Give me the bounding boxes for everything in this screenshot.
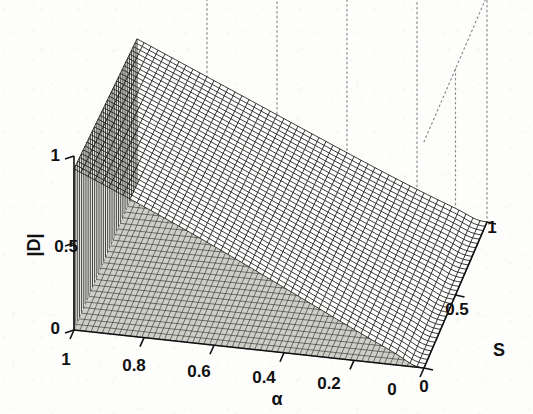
alpha-tick-label-0-2: 0.2 [317, 374, 341, 393]
alpha-tick-label-0: 0 [387, 380, 396, 399]
s-tick-label-0-5: 0.5 [445, 300, 469, 319]
alpha-tick-label-0-8: 0.8 [122, 356, 146, 375]
s-tick-label-1: 1 [487, 218, 496, 237]
z-tick-label-0: 0 [51, 319, 60, 338]
s-tick-label-0: 0 [419, 377, 428, 396]
alpha-tick-label-0-6: 0.6 [187, 362, 211, 381]
surface-plot-figure: 1 0.5 0 |D| 1 0.8 0.6 0.4 0.2 0 α 0 0.5 … [0, 0, 533, 414]
alpha-tick-label-1: 1 [61, 350, 70, 369]
alpha-axis-title: α [271, 389, 282, 409]
alpha-tick-label-0-4: 0.4 [252, 368, 276, 387]
z-tick-label-0-5: 0.5 [54, 237, 78, 256]
z-axis-title: |D| [24, 233, 44, 256]
s-axis-title: S [493, 340, 505, 360]
z-tick-label-1: 1 [51, 146, 60, 165]
